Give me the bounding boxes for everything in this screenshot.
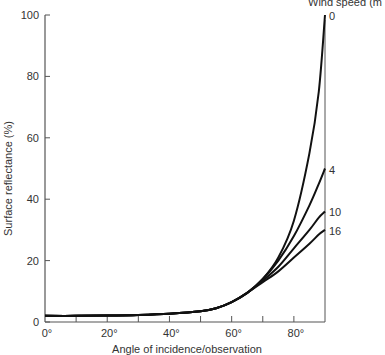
y-tick-label: 80 — [27, 70, 39, 82]
series-lines — [45, 15, 325, 316]
series-line-4 — [45, 169, 325, 316]
series-line-0 — [45, 15, 325, 316]
series-label-0: 0 — [329, 10, 335, 22]
x-tick-label: 0° — [42, 327, 53, 339]
x-axis-label: Angle of incidence/observation — [112, 343, 262, 355]
chart: 0204060801000°20°40°60°80°Angle of incid… — [0, 0, 385, 355]
x-tick-label: 20° — [101, 327, 118, 339]
legend-title: Wind speed (m — [308, 0, 382, 8]
x-tick-label: 80° — [288, 327, 305, 339]
axes — [45, 15, 325, 322]
y-tick-label: 40 — [27, 193, 39, 205]
series-label-16: 16 — [329, 225, 341, 237]
series-line-16 — [45, 230, 325, 316]
x-tick-label: 60° — [225, 327, 242, 339]
x-tick-label: 40° — [163, 327, 180, 339]
series-line-10 — [45, 211, 325, 315]
y-tick-label: 60 — [27, 132, 39, 144]
y-tick-label: 0 — [33, 316, 39, 328]
series-label-4: 4 — [329, 164, 335, 176]
y-axis-label: Surface reflectance (%) — [2, 121, 14, 236]
y-tick-label: 20 — [27, 255, 39, 267]
y-tick-label: 100 — [21, 9, 39, 21]
series-label-10: 10 — [329, 206, 341, 218]
